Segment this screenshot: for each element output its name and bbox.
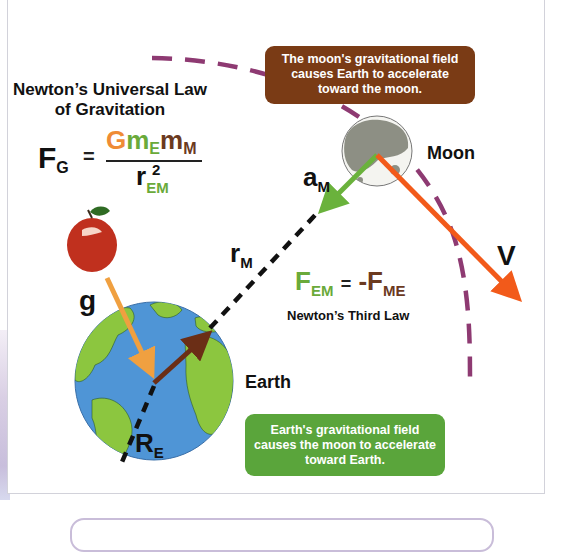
bottom-caption-box xyxy=(70,518,494,552)
label-velocity: V xyxy=(497,240,516,272)
gravitation-formula: FG = GmEmM r2EM xyxy=(38,125,238,195)
third-law-caption: Newton’s Third Law xyxy=(287,308,409,323)
title-line-1: Newton’s Universal Law xyxy=(10,80,210,100)
diagram-title: Newton’s Universal Law of Gravitation xyxy=(10,80,210,120)
callout-moon-field: The moon's gravitational field causes Ea… xyxy=(265,46,475,104)
moon-globe xyxy=(342,116,412,186)
label-earth: Earth xyxy=(245,372,291,393)
label-earth-radius: RE xyxy=(135,428,164,459)
formula-numerator: GmEmM xyxy=(106,125,196,156)
formula-denominator: r2EM xyxy=(136,161,169,192)
force-symbol: FG xyxy=(38,141,69,175)
label-gravity: g xyxy=(79,285,96,317)
title-line-2: of Gravitation xyxy=(10,100,210,120)
apple-icon xyxy=(67,207,117,272)
callout-earth-field: Earth's gravitational field causes the m… xyxy=(245,414,445,476)
label-moon: Moon xyxy=(427,143,475,164)
label-moon-acceleration: aM xyxy=(303,162,330,193)
label-distance: rM xyxy=(230,238,253,269)
equals-sign: = xyxy=(83,145,95,168)
third-law-equation: FEM = -FME xyxy=(295,266,405,297)
